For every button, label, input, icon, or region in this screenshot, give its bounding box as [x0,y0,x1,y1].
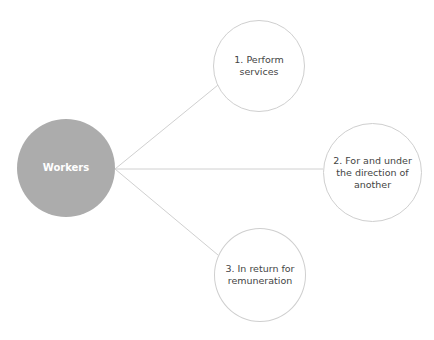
node-perform-services: 1. Perform services [213,20,305,112]
node-label: 3. In return for remuneration [221,263,299,287]
center-node-workers: Workers [17,119,115,217]
connector-line-1 [115,85,218,169]
node-label: 1. Perform services [228,54,290,78]
node-label: 2. For and under the direction of anothe… [333,155,413,191]
connector-line-3 [115,169,218,255]
node-return-for-remuneration: 3. In return for remuneration [214,228,306,322]
center-node-label: Workers [43,162,90,174]
node-direction-of-another: 2. For and under the direction of anothe… [323,123,422,222]
